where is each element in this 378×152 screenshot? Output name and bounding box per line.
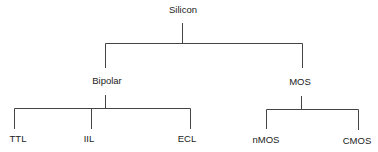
tree-connectors: [0, 0, 378, 152]
node-mos: MOS: [289, 76, 311, 87]
node-ecl: ECL: [178, 133, 196, 144]
node-iil: IIL: [84, 133, 95, 144]
node-nmos: nMOS: [253, 134, 280, 145]
node-cmos: CMOS: [343, 135, 372, 146]
node-bipolar: Bipolar: [92, 75, 122, 86]
node-silicon: Silicon: [169, 4, 197, 15]
node-ttl: TTL: [10, 133, 27, 144]
